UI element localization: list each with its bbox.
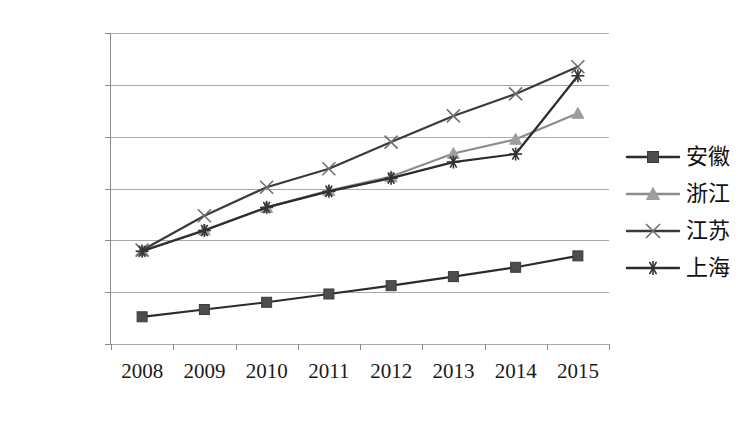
legend-item-2[interactable]: 浙江 bbox=[625, 175, 749, 212]
data-point-square-marker bbox=[199, 305, 209, 315]
x-tick-label: 2015 bbox=[538, 360, 618, 382]
series-3 bbox=[136, 69, 585, 257]
data-point-asterisk-marker bbox=[385, 172, 398, 185]
legend-item-label: 上海 bbox=[681, 257, 730, 279]
legend-item-1[interactable]: 安徽 bbox=[625, 138, 749, 175]
x-tick-mark bbox=[236, 344, 237, 350]
chart-figure: 20082009201020112012201320142015 0200004… bbox=[0, 0, 749, 421]
plot-axes: 20082009201020112012201320142015 bbox=[110, 33, 609, 345]
legend-item-label: 安徽 bbox=[681, 146, 730, 168]
series-0 bbox=[137, 251, 583, 322]
data-point-asterisk-marker bbox=[646, 261, 660, 275]
data-point-x-marker bbox=[447, 109, 460, 122]
x-tick-mark bbox=[298, 344, 299, 350]
x-tick-mark bbox=[609, 344, 610, 350]
plot-area-wrapper: 20082009201020112012201320142015 0200004… bbox=[0, 0, 620, 421]
data-series-layer bbox=[111, 33, 609, 344]
legend-asterisk-icon bbox=[625, 258, 681, 278]
data-point-x-marker bbox=[198, 209, 211, 222]
data-point-square-marker bbox=[137, 312, 147, 322]
data-point-square-marker bbox=[511, 262, 521, 272]
data-point-triangle-marker bbox=[510, 133, 522, 144]
data-point-square-marker bbox=[448, 272, 458, 282]
legend-item-3[interactable]: 江苏 bbox=[625, 212, 749, 249]
data-point-square-marker bbox=[262, 297, 272, 307]
x-tick-mark bbox=[111, 344, 112, 350]
chart-legend: 安徽浙江江苏上海 bbox=[625, 138, 749, 286]
legend-triangle-icon bbox=[625, 184, 681, 204]
data-point-square-marker bbox=[573, 251, 583, 261]
data-point-x-marker bbox=[260, 181, 273, 194]
data-point-x-marker bbox=[385, 136, 398, 149]
legend-x-icon bbox=[625, 221, 681, 241]
data-point-x-marker bbox=[509, 87, 522, 100]
legend-item-4[interactable]: 上海 bbox=[625, 249, 749, 286]
x-tick-mark bbox=[360, 344, 361, 350]
data-point-square-marker bbox=[386, 281, 396, 291]
x-tick-mark bbox=[485, 344, 486, 350]
legend-item-label: 江苏 bbox=[681, 220, 730, 242]
legend-square-icon bbox=[625, 147, 681, 167]
x-tick-mark bbox=[547, 344, 548, 350]
x-tick-mark bbox=[173, 344, 174, 350]
data-point-triangle-marker bbox=[572, 107, 584, 118]
data-point-x-marker bbox=[322, 162, 335, 175]
data-point-square-marker bbox=[648, 151, 659, 162]
x-tick-mark bbox=[422, 344, 423, 350]
data-point-square-marker bbox=[324, 289, 334, 299]
legend-item-label: 浙江 bbox=[681, 183, 730, 205]
